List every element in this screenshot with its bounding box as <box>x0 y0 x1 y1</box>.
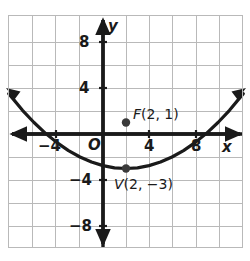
focus-point-F <box>122 118 130 126</box>
x-tick-label-4: 4 <box>144 139 154 154</box>
focus-label-name: F <box>133 106 141 122</box>
y-tick-label-8: 8 <box>79 35 89 50</box>
graph-figure: 8 4 −4 −8 −4 4 8 O x y F(2, 1) V(2, −3) <box>0 0 250 261</box>
origin-label: O <box>88 138 101 153</box>
figure-background <box>0 0 250 261</box>
vertex-point-label: V(2, −3) <box>114 177 173 191</box>
focus-label-coords: (2, 1) <box>141 106 179 122</box>
x-tick-label-8: 8 <box>191 139 201 154</box>
focus-point-label: F(2, 1) <box>133 107 179 121</box>
y-tick-label-4: 4 <box>79 81 89 96</box>
coordinate-plane-svg <box>0 0 250 261</box>
x-axis-label: x <box>222 140 232 155</box>
vertex-label-coords: (2, −3) <box>124 176 173 192</box>
x-tick-label-neg4: −4 <box>38 139 61 154</box>
y-axis-label: y <box>108 19 118 34</box>
vertex-label-name: V <box>114 176 124 192</box>
vertex-point-V <box>122 164 130 172</box>
y-tick-label-neg4: −4 <box>69 173 92 188</box>
y-tick-label-neg8: −8 <box>69 219 92 234</box>
